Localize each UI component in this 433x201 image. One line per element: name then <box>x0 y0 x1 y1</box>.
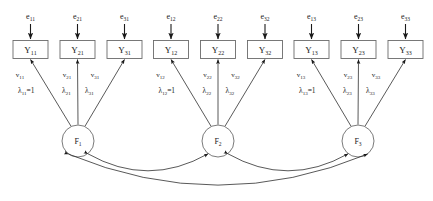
loading-arrow-F1-to-Y21 <box>78 60 79 125</box>
label-v21: v21 <box>63 71 72 80</box>
label-v23: v23 <box>344 71 353 80</box>
label-lambda31: λ31 <box>85 86 94 96</box>
label-v32: v32 <box>231 71 240 80</box>
covariance-curve-F2-F3 <box>228 154 348 171</box>
label-lambda22: λ22 <box>203 86 212 96</box>
label-e11: e11 <box>26 12 35 22</box>
label-v33: v33 <box>372 71 381 80</box>
label-v31: v31 <box>91 71 100 80</box>
label-e33: e33 <box>401 12 410 22</box>
loading-arrow-F3-to-Y23 <box>358 60 359 125</box>
label-e21: e21 <box>73 12 82 22</box>
diagram-canvas: Y11Y21Y31Y12Y22Y32Y13Y23Y33e11e21e31e12e… <box>0 0 433 201</box>
label-e22: e22 <box>213 12 222 22</box>
label-lambda11: λ11=1 <box>18 86 35 96</box>
label-lambda12: λ12=1 <box>159 86 176 96</box>
cfa-path-diagram: Y11Y21Y31Y12Y22Y32Y13Y23Y33e11e21e31e12e… <box>0 0 433 201</box>
label-lambda13: λ13=1 <box>299 86 316 96</box>
label-v13: v13 <box>297 71 306 80</box>
covariance-curve-F1-F3 <box>68 154 367 185</box>
label-e12: e12 <box>166 12 175 22</box>
error-arrows-group <box>31 24 406 39</box>
label-lambda23: λ23 <box>343 86 352 96</box>
label-v22: v22 <box>203 71 212 80</box>
label-e23: e23 <box>354 12 363 22</box>
label-lambda32: λ32 <box>226 86 235 96</box>
label-v12: v12 <box>156 71 165 80</box>
label-e31: e31 <box>120 12 129 22</box>
covariance-curve-F1-F2 <box>88 154 208 171</box>
label-e32: e32 <box>260 12 269 22</box>
covariance-curves-group <box>68 154 367 185</box>
label-lambda21: λ21 <box>62 86 71 96</box>
label-lambda33: λ33 <box>366 86 375 96</box>
label-e13: e13 <box>307 12 316 22</box>
label-v11: v11 <box>16 71 25 80</box>
